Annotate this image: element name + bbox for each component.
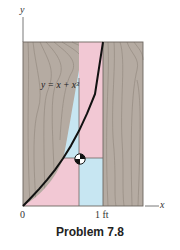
tick-label-1ft: 1 ft xyxy=(95,209,109,220)
x-axis-label: x xyxy=(160,199,164,210)
blue-area-lower xyxy=(79,158,103,206)
centroid-marker-icon xyxy=(75,154,85,164)
figure-caption: Problem 7.8 xyxy=(0,225,180,239)
y-axis-label: y xyxy=(20,4,24,15)
origin-label: 0 xyxy=(20,209,25,220)
equation-label: y = x + x³ xyxy=(41,80,79,90)
figure-diagram xyxy=(0,0,180,250)
